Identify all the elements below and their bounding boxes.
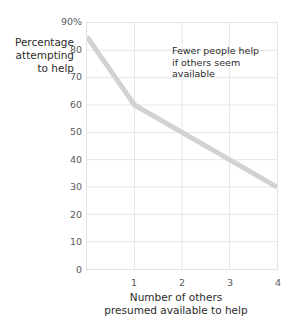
x-axis-tick-label: 4 [266, 278, 290, 288]
x-axis-tick-label: 2 [170, 278, 194, 288]
line-chart: Percentage attempting to help 90%8070605… [0, 0, 292, 323]
x-axis-label-line-1: Number of others [60, 291, 292, 304]
x-axis-label: Number of others presumed available to h… [60, 291, 292, 317]
x-axis-tick-label: 1 [122, 278, 146, 288]
x-axis-tick-label: 3 [218, 278, 242, 288]
x-axis-tick-labels: 1234 [0, 0, 292, 323]
x-axis-label-line-2: presumed available to help [60, 304, 292, 317]
